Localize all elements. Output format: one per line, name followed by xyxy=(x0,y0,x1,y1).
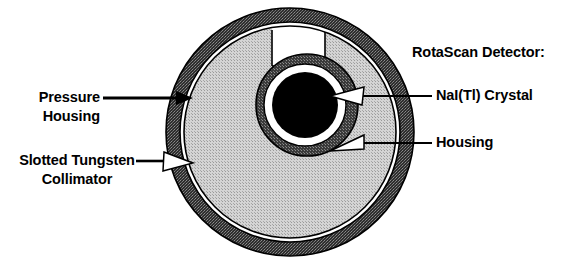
pressure-housing-leader-arrow xyxy=(103,91,193,105)
label-pressure-housing-line1: Pressure xyxy=(4,88,100,107)
label-slotted-tungsten-collimator: Slotted Tungsten Collimator xyxy=(0,151,154,189)
label-slotted-collimator-line2: Collimator xyxy=(0,170,154,189)
label-nai-tl-crystal: NaI(Tl) Crystal xyxy=(436,86,533,105)
label-pressure-housing: Pressure Housing xyxy=(4,88,100,126)
label-pressure-housing-line2: Housing xyxy=(4,107,100,126)
label-housing: Housing xyxy=(436,133,493,152)
nai-tl-crystal-core xyxy=(272,72,338,138)
rotascan-detector-figure: Pressure Housing Slotted Tungsten Collim… xyxy=(0,0,571,270)
label-rotascan-detector-heading: RotaScan Detector: xyxy=(412,43,545,62)
label-slotted-collimator-line1: Slotted Tungsten xyxy=(0,151,154,170)
